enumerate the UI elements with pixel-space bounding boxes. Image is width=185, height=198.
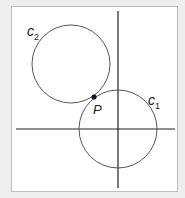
label-c1: c1	[148, 92, 160, 111]
circle-c2	[32, 25, 110, 103]
label-p: P	[93, 102, 102, 117]
tangent-circles-diagram: c2 c1 P	[0, 0, 185, 198]
label-c2: c2	[27, 23, 39, 42]
point-p	[91, 94, 96, 99]
